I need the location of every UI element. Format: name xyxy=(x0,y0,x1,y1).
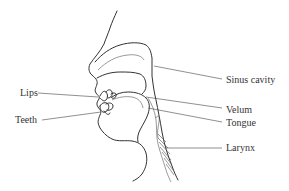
lips-teeth-cluster xyxy=(100,90,116,115)
sinus-cavity-leader-line xyxy=(154,66,222,79)
nasal-passage-outline xyxy=(98,55,144,70)
face-profile-outline xyxy=(89,11,147,181)
teeth-label: Teeth xyxy=(15,114,37,125)
sinus-cavity-label: Sinus cavity xyxy=(226,74,275,85)
larynx-label: Larynx xyxy=(226,142,255,153)
larynx-hatching xyxy=(158,134,174,175)
teeth-leader-line xyxy=(42,112,101,120)
pharynx-wall-outline xyxy=(148,98,171,182)
tongue-outline xyxy=(112,92,149,142)
tongue-upper-outline xyxy=(112,97,143,108)
palate-outline xyxy=(97,72,146,94)
vocal-tract-diagram: Lips Teeth Sinus cavity Velum Tongue Lar… xyxy=(0,0,289,191)
lips-leader-line xyxy=(38,93,98,97)
lips-label: Lips xyxy=(20,87,38,98)
velum-label: Velum xyxy=(226,104,252,115)
tongue-label: Tongue xyxy=(226,117,256,128)
